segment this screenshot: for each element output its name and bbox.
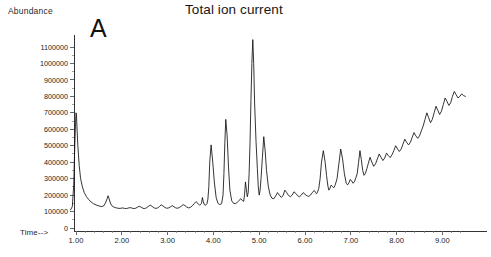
y-tick-label: 1000000: [40, 59, 68, 68]
x-tick-label: 5.00: [252, 236, 267, 245]
x-tick-label: 4.00: [206, 236, 221, 245]
y-tick-label: 100000: [44, 207, 68, 216]
tic-trace-path: [71, 40, 466, 210]
x-tick-label: 8.00: [389, 236, 404, 245]
tic-trace: [71, 40, 466, 210]
y-tick-label: 700000: [44, 108, 68, 117]
y-tick-label: 900000: [44, 76, 68, 85]
x-axis: 1.002.003.004.005.006.007.008.009.00: [69, 231, 487, 245]
y-tick-label: 0: [64, 224, 68, 233]
y-tick-label: 400000: [44, 158, 68, 167]
y-tick-label: 800000: [44, 92, 68, 101]
x-tick-label: 9.00: [435, 236, 450, 245]
chromatogram-plot: 0100000200000300000400000500000600000700…: [0, 0, 491, 257]
y-tick-label: 200000: [44, 191, 68, 200]
x-tick-label: 7.00: [343, 236, 358, 245]
y-tick-label: 300000: [44, 174, 68, 183]
x-tick-label: 2.00: [114, 236, 129, 245]
chromatogram-figure: Abundance Total ion current A Time--> 01…: [0, 0, 491, 257]
x-tick-label: 6.00: [298, 236, 313, 245]
x-tick-label: 1.00: [69, 236, 84, 245]
x-tick-label: 3.00: [160, 236, 175, 245]
y-tick-label: 600000: [44, 125, 68, 134]
y-tick-label: 1100000: [41, 43, 68, 52]
y-tick-label: 500000: [44, 141, 68, 150]
y-axis: 0100000200000300000400000500000600000700…: [40, 35, 74, 233]
